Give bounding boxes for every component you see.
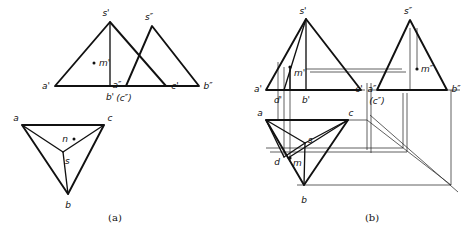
b-label-s-prime: s': [299, 6, 306, 16]
part-b-group: s' a' c' d' b' m' s″ a″ (c″) b″ m″: [254, 6, 461, 223]
caption-a: (a): [108, 212, 122, 223]
oblique-depth-axis: [370, 115, 458, 192]
label-c: c: [108, 113, 113, 123]
b-side-view-triangle-outline: [377, 20, 447, 90]
b-point-m-dot: [288, 156, 291, 159]
b-point-m-double-prime-dot: [415, 67, 418, 70]
side-view-triangle-outline: [126, 26, 199, 86]
label-a-prime: a': [42, 81, 50, 91]
label-s-prime: s': [102, 8, 109, 18]
part-a-group: s' a' c' b' m' s″ a″ (c″) b″ a: [13, 8, 213, 223]
b-label-c-double-prime-hidden: (c″): [369, 96, 384, 106]
b-label-c-prime: c': [355, 84, 362, 94]
label-a-double-prime: a″: [113, 80, 123, 90]
figure-canvas: s' a' c' b' m' s″ a″ (c″) b″ a: [0, 0, 463, 232]
label-a: a: [13, 113, 19, 123]
b-label-m-double-prime: m″: [421, 64, 434, 74]
label-b: b: [65, 200, 71, 210]
part-a-top-view: a c b s n: [13, 113, 112, 210]
b-top-view-edge-b-s: [304, 143, 305, 185]
descriptive-geometry-figure: s' a' c' b' m' s″ a″ (c″) b″ a: [0, 0, 463, 232]
b-label-m: m: [293, 158, 302, 168]
label-n: n: [62, 134, 68, 144]
b-front-view-triangle-outline: [266, 19, 361, 90]
b-label-b: b: [301, 195, 307, 205]
b-label-s-double-prime: s″: [404, 6, 413, 16]
top-view-edge-a-s: [22, 125, 63, 152]
part-b-front-view: s' a' c' d' b' m': [254, 6, 363, 105]
part-a-front-view: s' a' c' b' m': [42, 8, 179, 102]
label-s: s: [65, 156, 70, 166]
label-s-double-prime: s″: [145, 12, 154, 22]
label-m-prime: m': [99, 58, 110, 68]
part-a-side-view: s″ a″ (c″) b″: [113, 12, 214, 103]
b-front-view-edge-s-d: [284, 19, 306, 90]
b-label-b-prime: b': [302, 95, 310, 105]
label-b-double-prime: b″: [203, 81, 213, 91]
label-c-double-prime-hidden: (c″): [116, 93, 131, 103]
b-label-c: c: [349, 108, 354, 118]
caption-b: (b): [365, 212, 379, 223]
b-label-m-prime: m': [294, 68, 305, 78]
b-label-s: s: [308, 135, 313, 145]
point-m-prime-dot: [93, 62, 96, 65]
b-label-d: d: [274, 157, 280, 167]
part-b-side-view: s″ a″ (c″) b″ m″: [368, 6, 462, 106]
point-n-dot: [73, 138, 76, 141]
b-label-a: a: [257, 108, 263, 118]
b-label-a-double-prime: a″: [368, 84, 378, 94]
b-top-view-triangle-outline: [266, 120, 348, 185]
label-b-prime: b': [106, 92, 114, 102]
b-label-a-prime: a': [254, 84, 262, 94]
b-label-b-double-prime: b″: [451, 84, 461, 94]
part-b-top-view: a c b s d m: [257, 108, 353, 205]
b-label-d-prime: d': [274, 95, 282, 105]
